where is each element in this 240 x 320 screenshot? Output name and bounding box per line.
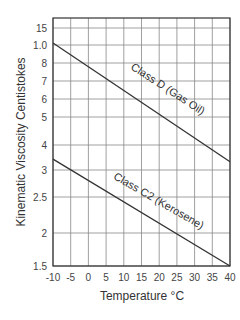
y-tick-label: 4	[41, 140, 47, 151]
x-tick-label: 0	[86, 272, 92, 283]
x-tick-label: 10	[118, 272, 130, 283]
x-tick-label: 25	[171, 272, 183, 283]
y-tick-label: 1.5	[33, 261, 47, 272]
x-tick-label: 40	[224, 272, 236, 283]
x-tick-label: -10	[46, 272, 61, 283]
y-tick-label: 5	[41, 112, 47, 123]
viscosity-chart: 151.08765432.521.5 -10-50510152025303540…	[0, 0, 240, 320]
x-tick-label: 35	[207, 272, 219, 283]
x-tick-label: 30	[189, 272, 201, 283]
y-tick-label: 15	[36, 23, 48, 34]
y-tick-label: 1.0	[33, 40, 47, 51]
y-tick-labels: 151.08765432.521.5	[33, 23, 47, 272]
y-tick-label: 2	[41, 228, 47, 239]
y-axis-label: Kinematic Viscosity Centistokes	[14, 57, 28, 226]
grid-lines	[53, 18, 230, 266]
series-label-class-d: Class D (Gas Oil)	[129, 60, 207, 117]
x-tick-label: 20	[154, 272, 166, 283]
x-tick-label: -5	[66, 272, 75, 283]
x-axis-label: Temperature °C	[100, 289, 184, 303]
y-tick-label: 6	[41, 94, 47, 105]
x-tick-label: 15	[136, 272, 148, 283]
y-tick-label: 7	[41, 76, 47, 87]
x-tick-label: 5	[103, 272, 109, 283]
y-tick-label: 8	[41, 58, 47, 69]
x-tick-labels: -10-50510152025303540	[46, 272, 236, 283]
y-tick-label: 2.5	[33, 192, 47, 203]
y-tick-label: 3	[41, 165, 47, 176]
